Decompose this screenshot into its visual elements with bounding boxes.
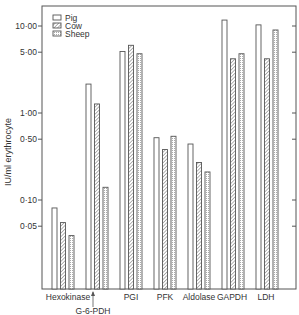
y-tick-label: 1·00 — [20, 108, 37, 118]
legend: PigCowSheep — [53, 13, 90, 39]
bar-pig — [222, 20, 227, 289]
bar-chart: 10·005·001·000·500·100·05 IU/ml erythroc… — [0, 0, 299, 315]
bar-pig — [154, 138, 159, 289]
x-label-g6pdh: G-6-PDH — [76, 306, 111, 315]
y-axis-right-ticks — [292, 26, 296, 226]
legend-swatch-sheep — [53, 31, 61, 36]
x-label-aldolase: Aldolase — [183, 292, 216, 302]
bar-cow — [61, 223, 66, 289]
legend-label-sheep: Sheep — [65, 29, 90, 39]
bar-pig — [256, 25, 261, 289]
x-label-gapdh: GAPDH — [217, 292, 247, 302]
bar-sheep — [239, 54, 244, 289]
bar-cow — [95, 104, 100, 289]
legend-swatch-pig — [53, 15, 61, 20]
legend-swatch-cow — [53, 23, 61, 28]
bar-cow — [197, 162, 202, 289]
bar-pig — [52, 208, 57, 289]
g6pdh-arrow-annotation — [91, 291, 95, 307]
bar-sheep — [137, 54, 142, 289]
bar-group-aldolase — [188, 144, 210, 289]
x-label-pfk: PFK — [157, 292, 174, 302]
x-label-pgi: PGI — [124, 292, 139, 302]
bar-cow — [265, 59, 270, 289]
bar-pig — [188, 144, 193, 289]
bar-group-pgi — [120, 45, 142, 289]
bar-group-ldh — [256, 25, 278, 289]
bar-pig — [86, 84, 91, 289]
y-axis: 10·005·001·000·500·100·05 — [15, 21, 42, 231]
y-tick-label: 0·05 — [20, 221, 37, 231]
bar-group-pfk — [154, 136, 176, 289]
bar-group-g-6-pdh — [86, 84, 108, 289]
bar-cow — [163, 150, 168, 289]
x-label-hexokinase: Hexokinase — [46, 292, 91, 302]
y-tick-label: 5·00 — [20, 47, 37, 57]
x-axis-labels: HexokinaseG-6-PDHPGIPFKAldolaseGAPDHLDH — [46, 292, 275, 315]
bar-cow — [231, 59, 236, 289]
bar-cow — [129, 45, 134, 289]
bar-group-hexokinase — [52, 208, 74, 289]
bar-sheep — [205, 172, 210, 289]
y-tick-label: 0·50 — [20, 134, 37, 144]
bar-sheep — [69, 236, 74, 289]
bar-sheep — [103, 187, 108, 289]
x-label-ldh: LDH — [257, 292, 274, 302]
y-tick-label: 0·10 — [20, 195, 37, 205]
y-axis-label: IU/ml erythrocyte — [3, 118, 13, 186]
bar-pig — [120, 51, 125, 289]
bar-group-gapdh — [222, 20, 244, 289]
bar-sheep — [171, 136, 176, 289]
bar-sheep — [273, 30, 278, 289]
y-tick-label: 10·00 — [15, 21, 37, 31]
bars — [52, 20, 278, 289]
